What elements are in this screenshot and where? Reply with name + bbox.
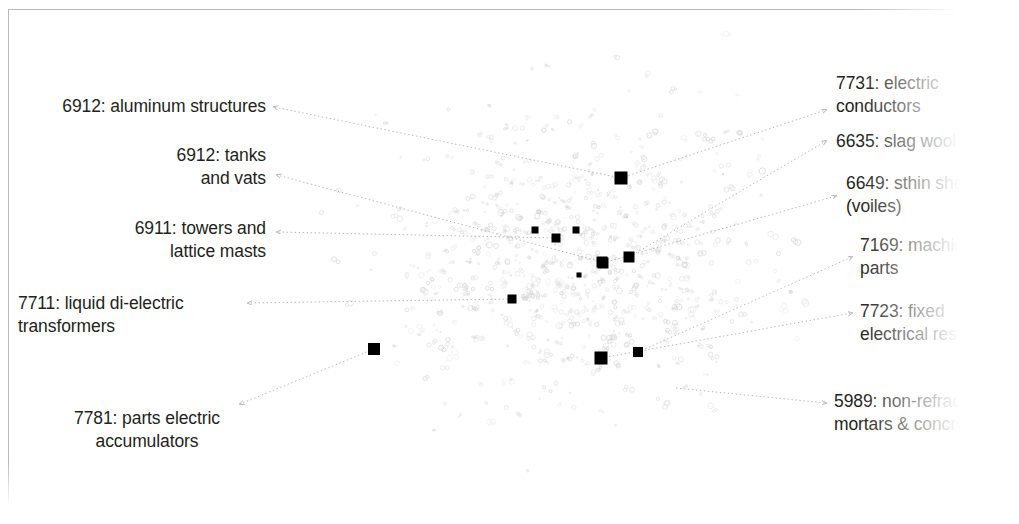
highlighted-marker[interactable]: 7169: machine parts xyxy=(633,347,643,357)
leader-line xyxy=(274,107,621,178)
annotation-label-6912-aluminum: 6912: aluminum structures xyxy=(30,95,266,118)
highlighted-marker[interactable]: 7781: parts electric accumulators xyxy=(368,343,380,355)
leader-line xyxy=(277,232,556,238)
annotation-label-6912-tanks: 6912: tanks and vats xyxy=(120,144,266,190)
annotation-label-6649-sthin: 6649: sthin sheets (voiles) xyxy=(846,172,1018,218)
background-point-cloud xyxy=(319,31,808,472)
highlighted-marker[interactable]: 6649: sthin sheets (voiles) xyxy=(598,258,609,269)
highlighted-marker[interactable]: unlabeled xyxy=(532,227,539,234)
highlighted-marker[interactable]: 6911: towers and lattice masts xyxy=(552,234,561,243)
leader-line xyxy=(676,388,826,403)
leader-line xyxy=(248,299,512,303)
highlighted-marker[interactable]: 6912: aluminum structures / 7731: electr… xyxy=(615,172,628,185)
annotation-label-7711-liquid: 7711: liquid di-electric transformers xyxy=(18,292,240,338)
highlighted-marker[interactable]: 7723: fixed electrical resistors xyxy=(595,352,608,365)
leader-line xyxy=(240,349,374,404)
figure-canvas: 6912: aluminum structures / 7731: electr… xyxy=(0,0,1019,524)
annotation-label-6911-towers: 6911: towers and lattice masts xyxy=(92,217,266,263)
annotation-label-7781-parts: 7781: parts electric accumulators xyxy=(58,407,236,453)
highlighted-marker[interactable]: 7711: liquid di-electric transformers xyxy=(508,295,517,304)
annotation-label-7169-machine: 7169: machine parts xyxy=(860,234,1018,280)
highlighted-marker[interactable]: 6635: slag wool xyxy=(624,252,635,263)
leader-line xyxy=(621,110,826,178)
annotation-label-6635-slag: 6635: slag wool xyxy=(836,130,1016,153)
annotation-label-7723-fixed: 7723: fixed electrical resistors xyxy=(860,300,1018,346)
highlighted-marker[interactable]: unlabeled xyxy=(577,273,582,278)
leader-line xyxy=(638,257,852,352)
annotation-label-5989-nonrefractory: 5989: non-refractory mortars & concretes xyxy=(834,390,1018,436)
highlighted-marker[interactable]: unlabeled xyxy=(573,227,580,234)
annotation-label-7731-electric: 7731: electric conductors xyxy=(836,72,1016,118)
